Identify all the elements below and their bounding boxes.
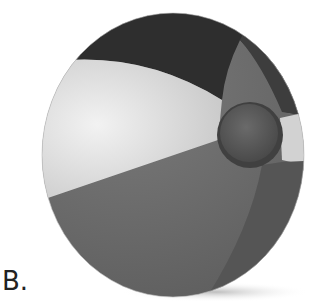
light-right-panel bbox=[280, 108, 325, 170]
beach-ball-figure: B. bbox=[0, 0, 325, 307]
beach-ball-image bbox=[0, 0, 325, 307]
valve-cap bbox=[220, 104, 278, 162]
ball-body bbox=[0, 0, 325, 307]
figure-label: B. bbox=[2, 268, 28, 294]
